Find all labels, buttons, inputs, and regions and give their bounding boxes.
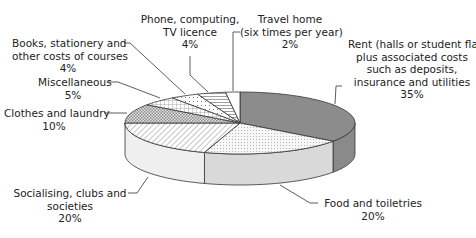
leader-food — [280, 185, 318, 203]
pie-top-slices — [125, 92, 355, 154]
leader-books — [124, 43, 185, 94]
leader-rent — [335, 86, 342, 104]
label-travel: Travel home (six times per year) 2% — [240, 13, 340, 51]
label-food: Food and toiletries 20% — [318, 197, 428, 222]
leader-misc — [108, 82, 160, 98]
label-books: Books, stationery and other costs of cou… — [12, 37, 124, 75]
label-phone: Phone, computing, TV licence 4% — [140, 13, 240, 51]
label-social: Socialising, clubs and societies 20% — [8, 187, 132, 225]
label-misc: Miscellaneous 5% — [38, 76, 108, 101]
leader-phone — [190, 56, 208, 92]
label-rent: Rent (halls or student flat) plus associ… — [348, 38, 476, 101]
label-clothes: Clothes and laundry 10% — [4, 107, 104, 132]
